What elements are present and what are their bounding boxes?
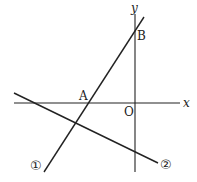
x-axis-label: x xyxy=(183,96,190,110)
coordinate-diagram: y x O B A ① ② xyxy=(0,0,197,182)
point-b-label: B xyxy=(137,29,146,43)
point-a-label: A xyxy=(78,89,88,103)
line-1-label: ① xyxy=(30,158,42,173)
line-2-label: ② xyxy=(160,157,172,172)
y-axis-label: y xyxy=(130,1,138,15)
origin-label: O xyxy=(124,105,134,119)
